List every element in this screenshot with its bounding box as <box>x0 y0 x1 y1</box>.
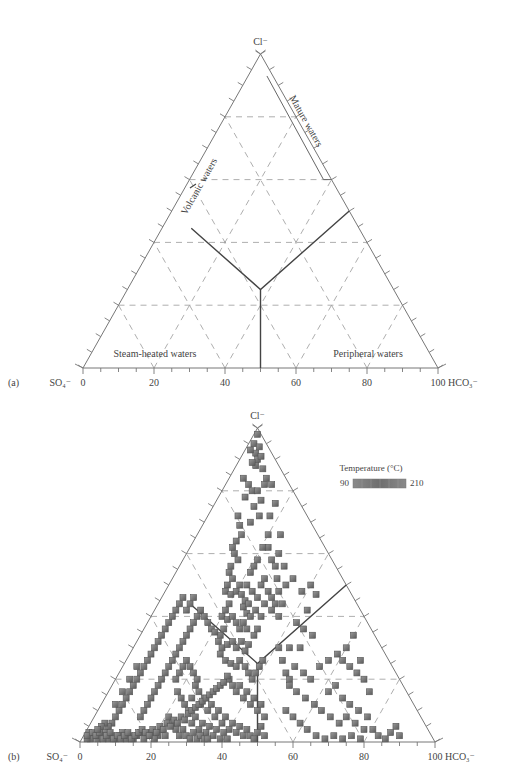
sample-point <box>301 670 307 676</box>
sample-point <box>184 632 190 638</box>
sample-point <box>292 664 298 670</box>
axis-tick <box>346 582 351 585</box>
sample-point <box>247 569 253 575</box>
sample-point <box>113 701 119 707</box>
sample-point <box>255 708 261 714</box>
sample-point <box>334 651 340 657</box>
sample-point <box>175 720 181 726</box>
sample-point <box>272 563 278 569</box>
sample-point <box>304 607 310 613</box>
sample-point <box>357 736 363 742</box>
sample-point <box>290 714 296 720</box>
sample-point <box>340 736 346 742</box>
sample-point <box>249 676 255 682</box>
sample-point <box>255 595 261 601</box>
axis-tick <box>329 551 334 554</box>
axis-tick <box>293 488 298 491</box>
sample-point <box>366 689 372 695</box>
axis-tick <box>278 82 283 85</box>
sample-point <box>173 676 179 682</box>
sample-point <box>162 670 168 676</box>
sample-point <box>180 664 186 670</box>
sample-point <box>317 664 323 670</box>
sample-point <box>269 595 275 601</box>
sample-point <box>155 682 161 688</box>
sample-point <box>253 670 259 676</box>
axis-tick <box>176 192 181 195</box>
axis-tick <box>320 535 325 538</box>
sample-point <box>184 657 190 663</box>
sample-point <box>219 720 225 726</box>
right-corner-label-hco3: HCO₃⁻ <box>448 377 478 388</box>
sample-point <box>189 720 195 726</box>
sample-point <box>251 563 257 569</box>
sample-point <box>199 720 205 726</box>
sample-point <box>255 626 261 632</box>
sample-point <box>223 607 229 613</box>
sample-point <box>187 601 193 607</box>
sample-point <box>326 689 332 695</box>
sample-point <box>308 582 314 588</box>
sample-point <box>326 657 332 663</box>
sample-point <box>290 576 296 582</box>
sample-point <box>226 601 232 607</box>
sample-point <box>155 639 161 645</box>
axis-tick <box>167 208 172 211</box>
sample-point <box>294 689 300 695</box>
sample-point <box>260 466 266 472</box>
sample-point <box>255 431 261 437</box>
sample-point <box>134 664 140 670</box>
sample-point <box>192 682 198 688</box>
sample-point <box>246 601 252 607</box>
sample-point <box>162 626 168 632</box>
axis-tick-label: 0 <box>78 751 83 762</box>
sample-point <box>263 475 269 481</box>
axis-tick <box>128 645 133 648</box>
sample-point <box>127 676 133 682</box>
sample-point <box>262 576 268 582</box>
axis-tick <box>182 551 187 554</box>
axis-tick <box>364 613 369 616</box>
sample-point <box>397 733 403 739</box>
sample-point <box>217 736 223 742</box>
ternary-chart-figure: Cl⁻020406080100SO₄⁻HCO₃⁻(a)Mature waters… <box>0 0 510 778</box>
sample-point <box>233 664 239 670</box>
axis-tick <box>311 519 316 522</box>
sample-point <box>311 701 317 707</box>
axis-tick <box>235 456 240 459</box>
sample-point <box>173 651 179 657</box>
axis-tick <box>403 302 408 305</box>
sample-point <box>205 708 211 714</box>
sample-point <box>237 682 243 688</box>
sample-point <box>189 695 195 701</box>
axis-tick-label: 80 <box>359 751 369 762</box>
sample-point <box>249 460 255 466</box>
sample-point <box>283 708 289 714</box>
sample-point <box>255 557 261 563</box>
axis-tick <box>420 334 425 337</box>
sample-point <box>120 701 126 707</box>
sample-point <box>258 453 264 459</box>
sample-point <box>281 563 287 569</box>
sample-point <box>242 494 248 500</box>
sample-point <box>258 497 264 503</box>
axis-tick <box>102 692 107 695</box>
axis-tick <box>349 208 354 211</box>
sample-point <box>169 657 175 663</box>
sample-point <box>258 582 264 588</box>
axis-tick <box>229 98 234 101</box>
sample-point <box>253 607 259 613</box>
sample-point <box>240 620 246 626</box>
sample-point <box>116 708 122 714</box>
sample-point <box>244 689 250 695</box>
axis-tick <box>119 661 124 664</box>
sample-point <box>176 645 182 651</box>
sample-point <box>247 519 253 525</box>
sample-point <box>242 664 248 670</box>
sample-point <box>313 733 319 739</box>
axis-tick <box>208 504 213 507</box>
apex-label-cl: Cl⁻ <box>250 410 265 421</box>
sample-point <box>294 620 300 626</box>
sample-point <box>388 730 394 736</box>
sample-point <box>159 632 165 638</box>
